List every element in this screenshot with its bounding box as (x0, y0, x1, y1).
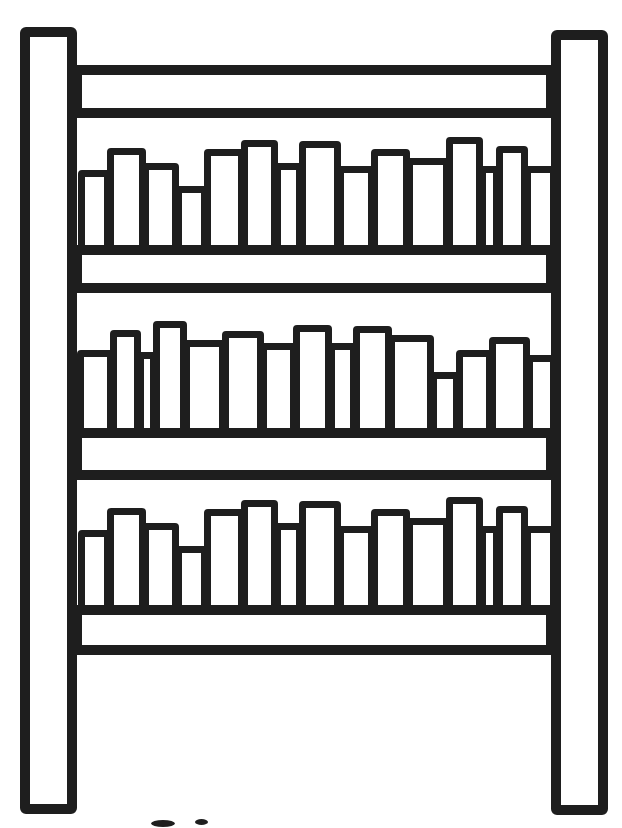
top-shelf-book-5 (204, 149, 245, 253)
top-shelf-book-12 (446, 137, 483, 253)
bottom-shelf-book-2 (107, 508, 146, 613)
bottom-shelf-book-5 (204, 509, 245, 613)
bottom-shelf-book-12 (446, 497, 483, 613)
shelf-board-1 (72, 245, 556, 293)
bottom-shelf-book-6 (241, 500, 278, 613)
cut-off-mark-1 (151, 820, 175, 827)
top-board (72, 65, 556, 118)
top-shelf-book-8 (299, 141, 341, 253)
middle-shelf-book-7 (260, 343, 297, 436)
shelf-board-2 (72, 428, 556, 480)
middle-shelf-book-13 (456, 350, 493, 436)
top-shelf-book-6 (241, 140, 278, 253)
top-shelf-book-2 (107, 148, 146, 253)
bottom-shelf-book-9 (337, 526, 375, 613)
bottom-shelf-book-10 (371, 509, 410, 613)
middle-shelf-book-4 (153, 321, 187, 436)
shelf-post-right (551, 30, 608, 815)
shelf-post-left (20, 27, 77, 814)
middle-shelf-book-14 (489, 337, 530, 436)
middle-shelf-book-10 (353, 326, 392, 436)
shelf-board-3 (72, 605, 556, 655)
top-shelf-book-3 (142, 163, 179, 253)
middle-shelf-book-1 (77, 350, 114, 436)
bottom-shelf-book-8 (299, 501, 341, 613)
cut-off-mark-2 (195, 819, 208, 825)
middle-shelf-book-8 (293, 325, 332, 436)
middle-shelf-book-11 (388, 335, 434, 436)
top-shelf-book-11 (406, 158, 450, 253)
top-shelf-book-9 (337, 166, 375, 253)
bottom-shelf-book-11 (406, 518, 450, 613)
bottom-shelf-book-3 (142, 523, 179, 613)
top-shelf-book-10 (371, 149, 410, 253)
middle-shelf-book-5 (183, 340, 226, 436)
middle-shelf-book-6 (222, 331, 264, 436)
bookshelf-line-drawing (0, 0, 622, 828)
